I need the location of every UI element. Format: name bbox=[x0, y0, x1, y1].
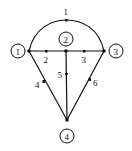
node-1: 1 bbox=[11, 44, 25, 58]
edge-5-arrow-icon bbox=[65, 73, 68, 77]
node-1-label: 1 bbox=[16, 47, 21, 57]
network-diagram: 1 2 3 4 5 6 1 2 3 4 bbox=[0, 0, 132, 151]
node-4-label: 4 bbox=[65, 132, 70, 142]
edge-5-line bbox=[66, 51, 67, 120]
edge-4-arrow-icon bbox=[43, 80, 46, 83]
node-3-label: 3 bbox=[114, 47, 119, 57]
edge-1-arrow-icon bbox=[65, 19, 68, 22]
junction-node-3 bbox=[102, 49, 106, 53]
node-3: 3 bbox=[109, 44, 123, 58]
node-2: 2 bbox=[59, 32, 73, 46]
edge-2-arrow-icon bbox=[45, 50, 48, 53]
junction-node-2 bbox=[64, 49, 68, 53]
edge-4-label: 4 bbox=[35, 80, 40, 90]
node-2-label: 2 bbox=[64, 35, 69, 45]
edge-2-label: 2 bbox=[44, 55, 49, 65]
edge-1-label: 1 bbox=[64, 7, 69, 17]
edge-5-label: 5 bbox=[58, 70, 63, 80]
edge-6-arrow-icon bbox=[89, 78, 92, 81]
junction-node-4 bbox=[66, 119, 69, 122]
edge-3-label: 3 bbox=[82, 55, 87, 65]
edge-3-arrow-icon bbox=[83, 50, 86, 53]
edge-6-label: 6 bbox=[93, 78, 98, 88]
junction-node-1 bbox=[27, 49, 31, 53]
node-4: 4 bbox=[60, 129, 74, 143]
